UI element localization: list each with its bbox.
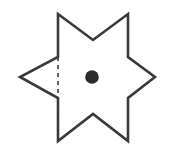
star-figure-svg: Six-pointed star outline with center poi… [0,0,174,158]
figure-canvas: Six-pointed star outline with center poi… [0,0,174,158]
center-dot [85,70,99,84]
